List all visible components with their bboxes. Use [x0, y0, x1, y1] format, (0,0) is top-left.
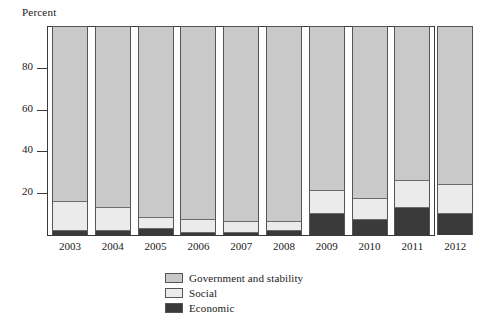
y-tick-label-40: 40 [22, 143, 33, 155]
legend-swatch-government-and-stability [165, 273, 183, 283]
bar-segment-2006-gov [180, 26, 216, 220]
y-axis-title: Percent [22, 6, 56, 18]
bar-segment-2003-gov [52, 26, 88, 202]
y-tick-60: 60 [37, 110, 47, 111]
bar-segment-2004-gov [95, 26, 131, 208]
x-tick-label-2010: 2010 [348, 240, 392, 252]
y-axis-line [47, 26, 48, 236]
bar-segment-2005-gov [138, 26, 174, 218]
x-tick-label-2011: 2011 [390, 240, 434, 252]
chart-legend: Government and stability Social Economic [165, 270, 303, 315]
legend-item-social: Social [165, 285, 303, 300]
bar-segment-2010-eco [352, 220, 388, 235]
legend-label-economic: Economic [189, 302, 234, 314]
bar-segment-2012-eco [437, 214, 473, 235]
bar-segment-2008-eco [266, 231, 302, 235]
bar-segment-2008-soc [266, 222, 302, 230]
bar-segment-2005-eco [138, 229, 174, 235]
legend-item-government-and-stability: Government and stability [165, 270, 303, 285]
bar-2007 [223, 26, 259, 235]
x-tick-label-2008: 2008 [262, 240, 306, 252]
bar-2010 [352, 26, 388, 235]
bar-2011 [394, 26, 430, 235]
bar-segment-2009-soc [309, 191, 345, 214]
bar-segment-2011-soc [394, 181, 430, 208]
bar-segment-2010-soc [352, 199, 388, 220]
bar-2009 [309, 26, 345, 235]
bar-segment-2003-eco [52, 231, 88, 235]
x-tick-label-2004: 2004 [91, 240, 135, 252]
x-tick-label-2009: 2009 [305, 240, 349, 252]
bar-segment-2009-gov [309, 26, 345, 191]
y-tick-80: 80 [37, 68, 47, 69]
bar-segment-2012-soc [437, 185, 473, 214]
bar-2004 [95, 26, 131, 235]
bar-segment-2012-gov [437, 26, 473, 185]
bar-segment-2006-soc [180, 220, 216, 233]
bar-segment-2003-soc [52, 202, 88, 231]
legend-item-economic: Economic [165, 300, 303, 315]
x-tick-label-2012: 2012 [433, 240, 477, 252]
legend-label-government-and-stability: Government and stability [189, 272, 303, 284]
x-tick-label-2007: 2007 [219, 240, 263, 252]
x-tick-label-2003: 2003 [48, 240, 92, 252]
plot-area: 20406080 [47, 26, 435, 236]
bar-segment-2006-eco [180, 233, 216, 235]
x-tick-label-2005: 2005 [134, 240, 178, 252]
bar-2005 [138, 26, 174, 235]
bar-2003 [52, 26, 88, 235]
bar-2006 [180, 26, 216, 235]
bar-segment-2007-eco [223, 233, 259, 235]
y-tick-40: 40 [37, 151, 47, 152]
bar-segment-2007-gov [223, 26, 259, 222]
bar-segment-2008-gov [266, 26, 302, 222]
legend-swatch-social [165, 288, 183, 298]
y-tick-label-60: 60 [22, 102, 33, 114]
y-tick-label-20: 20 [22, 185, 33, 197]
bar-2008 [266, 26, 302, 235]
legend-swatch-economic [165, 303, 183, 313]
x-tick-label-2006: 2006 [176, 240, 220, 252]
bar-segment-2004-eco [95, 231, 131, 235]
bar-segment-2009-eco [309, 214, 345, 235]
y-tick-label-80: 80 [22, 60, 33, 72]
bar-2012 [437, 26, 473, 235]
bar-segment-2007-soc [223, 222, 259, 232]
bar-segment-2011-eco [394, 208, 430, 235]
y-tick-20: 20 [37, 193, 47, 194]
bar-segment-2011-gov [394, 26, 430, 181]
bar-segment-2005-soc [138, 218, 174, 228]
legend-label-social: Social [189, 287, 217, 299]
bar-segment-2004-soc [95, 208, 131, 231]
x-axis-line [47, 235, 435, 236]
plot-right-border [434, 26, 435, 236]
bar-segment-2010-gov [352, 26, 388, 199]
